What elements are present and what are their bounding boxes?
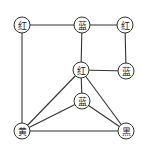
edge-n6-n7: [22, 101, 82, 131]
node-n8: 黑: [118, 123, 134, 139]
edges-group: [22, 25, 126, 131]
node-label: 红: [77, 65, 86, 76]
node-n4: 红: [73, 62, 89, 78]
graph-diagram: 红蓝红红蓝蓝黄黑: [0, 0, 143, 157]
node-label: 黄: [18, 126, 27, 137]
node-n5: 蓝: [118, 63, 134, 79]
node-label: 黑: [122, 127, 131, 137]
graph-svg: 红蓝红红蓝蓝黄黑: [0, 0, 143, 157]
node-n2: 蓝: [74, 17, 90, 33]
node-n3: 红: [117, 17, 133, 33]
node-label: 红: [18, 20, 27, 31]
node-label: 红: [121, 20, 130, 31]
edge-n4-n7: [22, 70, 81, 131]
node-label: 蓝: [122, 66, 131, 77]
node-n1: 红: [14, 17, 30, 33]
node-label: 蓝: [78, 96, 87, 107]
node-label: 蓝: [78, 20, 87, 31]
node-n7: 黄: [14, 123, 30, 139]
node-n6: 蓝: [74, 93, 90, 109]
